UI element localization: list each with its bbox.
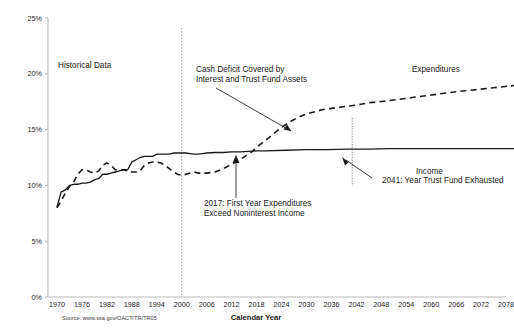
y-tick-label-5: 25% [28, 14, 43, 23]
x-tick-label-5: 2000 [174, 300, 190, 309]
x-axis-title: Calendar Year [231, 313, 282, 322]
annotation-cash-deficit-line2: Interest and Trust Fund Assets [196, 75, 307, 84]
chart-container: 0% 5% 10% 15% 20% 25% 1970 1976 1982 198… [0, 0, 514, 335]
x-tick-label-12: 2042 [348, 300, 364, 309]
x-tick-label-13: 2048 [373, 300, 389, 309]
x-tick-label-18: 2078 [498, 300, 514, 309]
annotation-cash-deficit-line1: Cash Deficit Covered by [196, 65, 285, 74]
y-tick-label-4: 20% [28, 69, 43, 78]
annotation-first-year-line2: Exceed Noninterest Income [204, 209, 305, 218]
x-tick-label-11: 2036 [323, 300, 339, 309]
y-tick-label-0: 0% [32, 293, 43, 302]
x-tick-label-8: 2018 [249, 300, 265, 309]
x-tick-label-7: 2012 [224, 300, 240, 309]
x-tick-label-0: 1970 [49, 300, 65, 309]
annotation-trust-fund-text: 2041: Year Trust Fund Exhausted [382, 176, 504, 185]
x-tick-label-2: 1982 [99, 300, 115, 309]
x-tick-label-15: 2060 [423, 300, 439, 309]
x-tick-label-10: 2030 [299, 300, 315, 309]
source-note: Source: www.ssa.gov/OACT/TR/TR05 [62, 315, 157, 321]
series-label-expenditures: Expenditures [412, 65, 460, 74]
x-tick-label-16: 2066 [448, 300, 464, 309]
x-tick-label-9: 2024 [274, 300, 290, 309]
x-tick-label-6: 2006 [199, 300, 215, 309]
y-tick-label-1: 5% [32, 237, 43, 246]
y-tick-label-2: 10% [28, 181, 43, 190]
annotation-first-year-line1: 2017: First Year Expenditures [204, 199, 311, 208]
x-tick-label-4: 1994 [149, 300, 165, 309]
y-tick-label-3: 15% [28, 125, 43, 134]
social-security-income-expenditures-chart: 0% 5% 10% 15% 20% 25% 1970 1976 1982 198… [0, 0, 514, 335]
x-tick-label-14: 2054 [398, 300, 414, 309]
series-label-income: Income [416, 167, 443, 176]
x-tick-label-3: 1988 [124, 300, 140, 309]
annotation-historical-data: Historical Data [58, 61, 112, 70]
x-tick-label-1: 1976 [74, 300, 90, 309]
x-tick-label-17: 2072 [473, 300, 489, 309]
